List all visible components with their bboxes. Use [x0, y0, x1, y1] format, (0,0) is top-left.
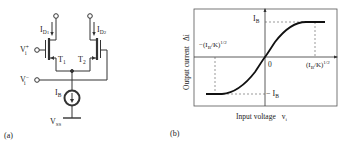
ib-neg-label: − I — [266, 89, 276, 98]
svg-text:ID1: ID1 — [40, 25, 50, 35]
vplus-terminal — [35, 48, 40, 53]
svg-text:T1: T1 — [58, 55, 66, 65]
t1-drain-terminal — [54, 14, 59, 19]
svg-text:− IB: − IB — [266, 89, 279, 99]
svg-text:IB: IB — [253, 14, 260, 24]
svg-text:(IB/K)1/2: (IB/K)1/2 — [306, 60, 330, 70]
x-axis-label: Input voltage — [236, 112, 276, 121]
panel-a-label: (a) — [4, 131, 13, 140]
svg-text:−(IB/K)1/2: −(IB/K)1/2 — [199, 40, 227, 50]
panel-b-label: (b) — [170, 129, 180, 138]
vminus-terminal — [35, 78, 40, 83]
svg-text:T2: T2 — [78, 55, 86, 65]
svg-text:V+i: V+i — [20, 44, 29, 56]
svg-text:ID2: ID2 — [97, 25, 107, 35]
t2-drain-terminal — [88, 14, 93, 19]
circuit-labels: ID1 ID2 V+i V−i T1 T2 IB VSS (a) — [4, 25, 107, 140]
svg-text:VSS: VSS — [50, 117, 62, 127]
figure: ID1 ID2 V+i V−i T1 T2 IB VSS (a) IB − IB… — [0, 0, 351, 144]
svg-text:V−i: V−i — [20, 74, 29, 86]
transfer-chart: IB − IB 0 (IB/K)1/2 −(IB/K)1/2 Output cu… — [170, 8, 338, 138]
y-axis-label: Output current — [182, 45, 191, 90]
svg-text:IB: IB — [55, 88, 62, 98]
svg-text:Input voltagevi: Input voltagevi — [236, 112, 288, 122]
origin-label: 0 — [268, 60, 272, 69]
svg-text:Output currentΔi: Output currentΔi — [182, 34, 191, 90]
transfer-curve — [206, 22, 325, 94]
